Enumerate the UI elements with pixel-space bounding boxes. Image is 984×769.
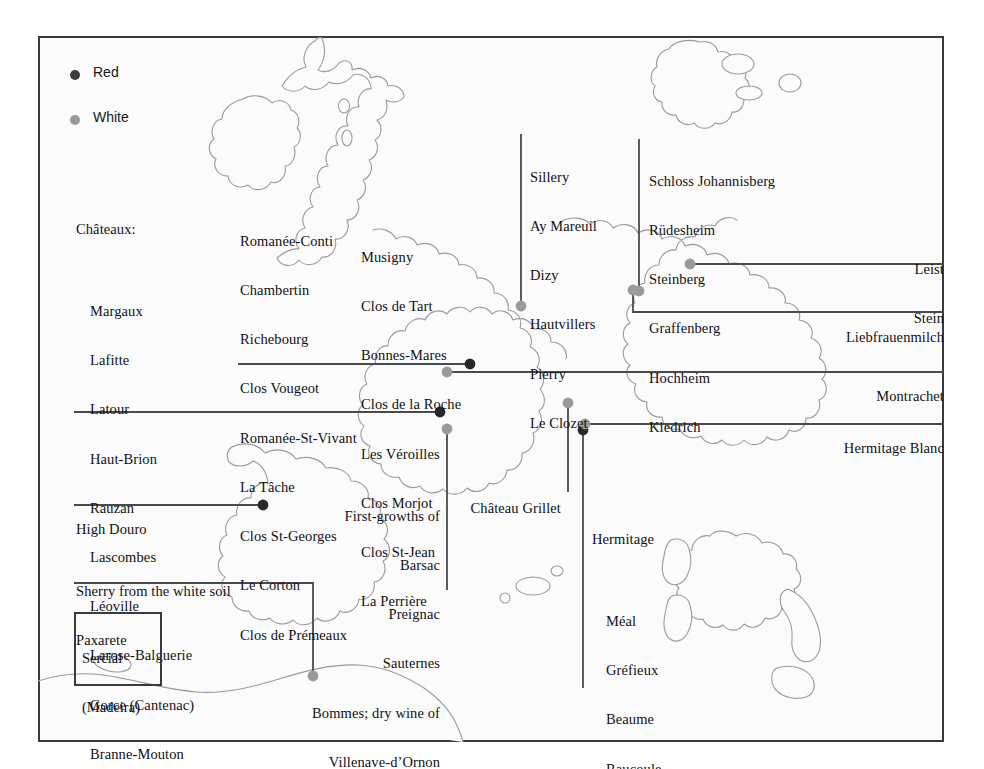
sauternes-item: First-growths of [247,508,440,524]
high-douro-item: High Douro [76,521,147,537]
bordeaux-item: Branne-Mouton [90,746,207,762]
hermitage-item: Raucoule [606,761,672,769]
rheingau-item: Rüdesheim [649,222,775,238]
hermitage-blanc-item: Hermitage Blanc [764,440,944,456]
burgundy2-item: Les Véroilles [361,446,461,462]
sauternes-item: Preignac [247,606,440,622]
burgundy1-item: Richebourg [240,331,357,347]
burgundy1-item: Romanée-Conti [240,233,357,249]
rheingau-item: Schloss Johannisberg [649,173,775,189]
legend-red-dot [70,70,80,80]
wine-map: Red White Châteaux: Margaux Lafitte Lato… [0,0,984,769]
burgundy2-item: Clos de la Roche [361,396,461,412]
legend-white-label: White [93,109,129,125]
madeira-item: Sercial [82,650,162,666]
label-madeira: Sercial (Madeira) [82,617,162,748]
label-hermitage: Hermitage Méal Gréfieux Beaume Raucoule … [592,498,672,769]
legend-red-label: Red [93,64,119,80]
bordeaux-item: Haut-Brion [90,451,207,467]
burgundy1-item: Romanée-St-Vivant [240,430,357,446]
champagne-item: Hautvillers [530,316,597,332]
bordeaux-item: Latour [90,401,207,417]
burgundy-red-dot [465,359,476,370]
madeira-item: (Madeira) [82,699,162,715]
champagne-item: Pierry [530,366,597,382]
hermitage-item: Beaume [606,711,672,727]
sauternes-item: Bommes; dry wine of [247,705,440,721]
rheingau-item: Kiedrich [649,419,775,435]
label-rheingau: Schloss Johannisberg Rüdesheim Steinberg… [649,140,775,468]
sauternes-item: Sauternes [247,655,440,671]
franconia-item: Leist [804,261,944,277]
hermitage-heading: Hermitage [592,531,672,547]
burgundy2-item: Bonnes-Mares [361,347,461,363]
rheingau-item: Graffenberg [649,320,775,336]
montrachet-item: Montrachet [794,388,944,404]
champagne-item: Dizy [530,267,597,283]
liebfrauenmilch-white-dot [628,285,639,296]
chateau-grillet-item: Château Grillet [418,500,561,516]
rheingau-item: Steinberg [649,271,775,287]
burgundy2-item: Clos de Tart [361,298,461,314]
burgundy1-item: Chambertin [240,282,357,298]
legend-white-dot [70,115,80,125]
champagne-item: Le Clozet [530,415,597,431]
champagne-item: Sillery [530,169,597,185]
burgundy2-item: Musigny [361,249,461,265]
champagne-white-dot [516,301,527,312]
burgundy1-item: Clos Vougeot [240,380,357,396]
label-sauternes: First-growths of Barsac Preignac Sautern… [247,475,440,769]
sherry-item: Sherry from the white soil [76,583,231,599]
hermitage-item: Méal [606,613,672,629]
label-hermitage-blanc: Hermitage Blanc [764,407,944,489]
sauternes-item: Villenave-d’Ornon [247,754,440,769]
bordeaux-item: Lafitte [90,352,207,368]
label-chateau-grillet: Château Grillet [418,467,561,549]
sauternes-item: Barsac [247,557,440,573]
bordeaux-heading: Châteaux: [76,221,207,237]
label-champagne: Sillery Ay Mareuil Dizy Hautvillers Pier… [530,136,597,464]
rheingau-item: Hochheim [649,370,775,386]
hermitage-item: Gréfieux [606,662,672,678]
champagne-item: Ay Mareuil [530,218,597,234]
liebfrauenmilch-item: Liebfrauenmilch [764,329,944,345]
bordeaux-item: Margaux [90,303,207,319]
